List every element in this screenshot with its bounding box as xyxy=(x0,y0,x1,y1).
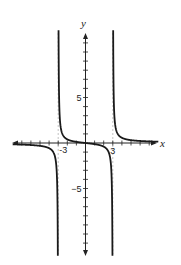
y-axis xyxy=(83,33,88,256)
y-tick-label-pos5: 5 xyxy=(76,93,81,103)
y-axis-arrow-down-icon xyxy=(83,250,88,256)
y-axis-label: y xyxy=(80,17,86,29)
x-tick-label-pos3: 3 xyxy=(110,146,115,156)
x-tick-label-neg3: -3 xyxy=(59,145,67,155)
curve-right-branch xyxy=(113,30,158,142)
curve-left-branch xyxy=(13,144,58,256)
x-axis-label: x xyxy=(159,137,165,149)
y-tick-label-neg5: −5 xyxy=(71,184,81,194)
function-plot: x y -3 3 5 −5 xyxy=(0,0,181,265)
y-axis-arrow-up-icon xyxy=(83,33,88,39)
